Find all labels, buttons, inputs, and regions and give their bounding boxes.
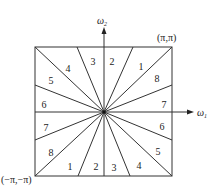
- region-number-label: 2: [110, 56, 115, 67]
- corner-label-top-right: (π,π): [157, 32, 176, 44]
- region-number-label: 5: [49, 75, 54, 86]
- region-number-label: 4: [137, 160, 142, 171]
- vertical-axis-arrow-icon: [102, 27, 107, 34]
- region-number-label: 7: [44, 122, 49, 133]
- region-number-label: 4: [66, 63, 71, 74]
- region-number-label: 1: [68, 161, 73, 172]
- origin-point: [103, 111, 106, 114]
- corner-label-bottom-left: (−π,−π): [1, 174, 32, 186]
- region-number-label: 1: [139, 61, 144, 72]
- region-number-label: 3: [112, 162, 117, 173]
- region-number-label: 6: [160, 121, 165, 132]
- horizontal-axis-arrow-icon: [187, 110, 194, 115]
- region-number-label: 6: [42, 99, 47, 110]
- region-number-label: 7: [162, 99, 167, 110]
- region-number-label: 5: [156, 146, 161, 157]
- vertical-axis-label: ω2: [97, 15, 107, 27]
- frequency-partition-diagram: ω2 ω1 (π,π) (−π,−π) 3241586776851234: [0, 0, 218, 194]
- region-number-label: 8: [49, 147, 54, 158]
- region-number-label: 8: [155, 73, 160, 84]
- region-number-label: 2: [94, 161, 99, 172]
- region-number-label: 3: [91, 56, 96, 67]
- horizontal-axis-label: ω1: [197, 107, 207, 119]
